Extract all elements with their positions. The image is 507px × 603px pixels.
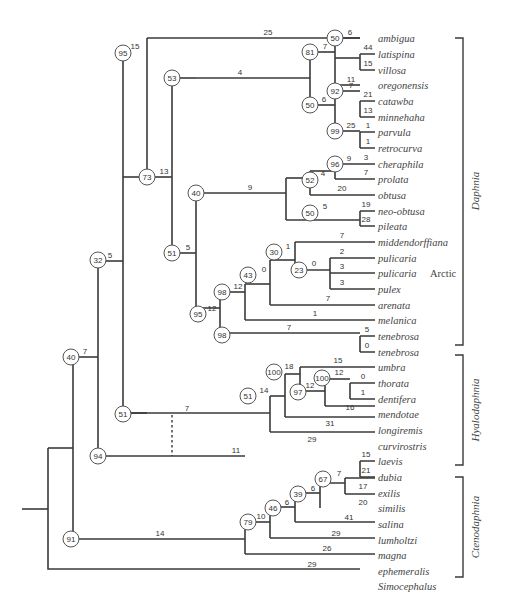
svg-text:14: 14 xyxy=(156,529,165,538)
bootstrap-node: 67 xyxy=(315,471,331,487)
leaf-similis: similis xyxy=(378,503,405,514)
leaf-retrocurva: retrocurva xyxy=(378,143,422,154)
svg-text:99: 99 xyxy=(331,127,340,136)
bootstrap-node: 98 xyxy=(214,327,230,343)
svg-text:7: 7 xyxy=(326,294,331,303)
bootstrap-node: 94 xyxy=(90,448,106,464)
leaf-pulex: pulex xyxy=(377,284,401,295)
svg-text:67: 67 xyxy=(319,475,328,484)
svg-text:Hyalodaphnia: Hyalodaphnia xyxy=(469,378,481,442)
bootstrap-node: 40 xyxy=(63,349,79,365)
svg-text:50: 50 xyxy=(306,101,315,110)
svg-text:46: 46 xyxy=(269,504,278,513)
bootstrap-node: 100 xyxy=(266,364,282,380)
svg-text:5: 5 xyxy=(365,325,370,334)
leaf-lumholtzi: lumholtzi xyxy=(378,535,417,546)
svg-text:41: 41 xyxy=(345,513,354,522)
svg-text:12: 12 xyxy=(234,282,243,291)
svg-text:100: 100 xyxy=(315,374,329,383)
svg-text:5: 5 xyxy=(323,202,328,211)
svg-text:21: 21 xyxy=(362,466,371,475)
bootstrap-node: 30 xyxy=(266,244,282,260)
leaf-ephemeralis: ephemeralis xyxy=(378,566,429,577)
svg-text:40: 40 xyxy=(192,189,201,198)
svg-text:51: 51 xyxy=(119,410,128,419)
bootstrap-node: 97 xyxy=(290,384,306,400)
svg-text:50: 50 xyxy=(331,34,340,43)
svg-text:0: 0 xyxy=(365,341,370,350)
bootstrap-node: 95 xyxy=(115,45,131,61)
svg-text:100: 100 xyxy=(267,368,281,377)
svg-text:31: 31 xyxy=(326,419,335,428)
svg-text:7: 7 xyxy=(83,347,88,356)
bootstrap-node: 98 xyxy=(214,284,230,300)
svg-text:17: 17 xyxy=(359,482,368,491)
leaf-neo-obtusa: neo-obtusa xyxy=(378,206,425,217)
leaf-latispina: latispina xyxy=(378,49,415,60)
bootstrap-node: 40 xyxy=(188,185,204,201)
svg-text:21: 21 xyxy=(364,90,373,99)
leaf-dentifera: dentifera xyxy=(378,394,416,405)
svg-text:44: 44 xyxy=(364,43,373,52)
bootstrap-node: 91 xyxy=(63,531,79,547)
svg-text:28: 28 xyxy=(362,215,371,224)
svg-text:6: 6 xyxy=(285,498,290,507)
leaf-tenebrosa-2: tenebrosa xyxy=(378,347,419,358)
svg-text:Ctenodaphnia: Ctenodaphnia xyxy=(469,495,481,558)
leaf-longiremis: longiremis xyxy=(378,425,423,436)
bootstrap-node: 92 xyxy=(327,83,343,99)
svg-text:4: 4 xyxy=(238,68,243,77)
svg-text:12: 12 xyxy=(335,368,344,377)
svg-text:94: 94 xyxy=(94,452,103,461)
svg-text:7: 7 xyxy=(364,168,369,177)
leaf-labels: ambigua latispina villosa oregonensis ca… xyxy=(377,33,457,592)
leaf-melanica: melanica xyxy=(378,315,417,326)
leaf-arenata: arenata xyxy=(378,300,410,311)
arctic-label: Arctic xyxy=(430,268,457,279)
svg-text:3: 3 xyxy=(364,153,369,162)
leaf-cheraphila: cheraphila xyxy=(378,159,424,170)
svg-text:7: 7 xyxy=(323,42,328,51)
bootstrap-node: 39 xyxy=(290,486,306,502)
svg-text:32: 32 xyxy=(94,256,103,265)
bootstrap-node: 32 xyxy=(90,252,106,268)
leaf-parvula: parvula xyxy=(377,127,411,138)
svg-text:15: 15 xyxy=(131,42,140,51)
bootstrap-node: 50 xyxy=(302,205,318,221)
svg-text:1: 1 xyxy=(361,388,366,397)
svg-text:9: 9 xyxy=(248,183,253,192)
leaf-pulicaria-arctic: pulicaria xyxy=(377,268,417,279)
svg-text:52: 52 xyxy=(306,176,315,185)
svg-text:7: 7 xyxy=(349,81,354,90)
svg-text:92: 92 xyxy=(331,87,340,96)
svg-text:13: 13 xyxy=(160,167,169,176)
bootstrap-node: 81 xyxy=(302,44,318,60)
group-hyalodaphnia: Hyalodaphnia xyxy=(455,355,481,465)
svg-text:7: 7 xyxy=(340,231,345,240)
svg-text:5: 5 xyxy=(108,251,113,260)
svg-text:9: 9 xyxy=(347,154,352,163)
svg-text:5: 5 xyxy=(186,243,191,252)
bootstrap-node: 96 xyxy=(327,156,343,172)
leaf-villosa: villosa xyxy=(378,65,406,76)
svg-text:12: 12 xyxy=(208,304,217,313)
leaf-middendorffiana: middendorffiana xyxy=(378,237,448,248)
svg-text:50: 50 xyxy=(306,209,315,218)
svg-text:91: 91 xyxy=(67,535,76,544)
leaf-simocephalus: Simocephalus xyxy=(378,581,436,592)
svg-text:20: 20 xyxy=(359,498,368,507)
svg-text:23: 23 xyxy=(295,266,304,275)
svg-text:81: 81 xyxy=(306,48,315,57)
leaf-laevis: laevis xyxy=(378,456,403,467)
svg-text:98: 98 xyxy=(218,288,227,297)
svg-text:12: 12 xyxy=(306,381,315,390)
leaf-obtusa: obtusa xyxy=(378,190,406,201)
leaf-prolata: prolata xyxy=(377,174,409,185)
svg-text:79: 79 xyxy=(244,518,253,527)
svg-text:0: 0 xyxy=(312,259,317,268)
leaf-dubia: dubia xyxy=(378,472,402,483)
svg-text:1: 1 xyxy=(286,242,291,251)
svg-text:29: 29 xyxy=(308,560,317,569)
leaf-mendotae: mendotae xyxy=(378,409,419,420)
svg-text:0: 0 xyxy=(361,372,366,381)
